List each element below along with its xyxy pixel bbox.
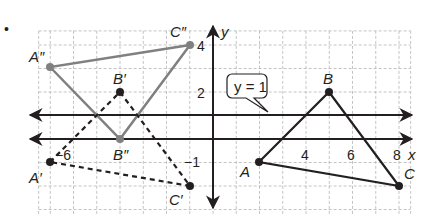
label-c-double-prime: C″ <box>170 23 187 40</box>
coordinate-plane-diagram: • y x 4 2 −1 −6 4 6 8 y = 1 A B C A′ B′ … <box>0 0 431 215</box>
y-tick-neg1: −1 <box>184 154 200 170</box>
label-c-prime: C′ <box>169 191 184 208</box>
y-tick-2: 2 <box>197 85 205 101</box>
label-a: A <box>239 163 250 180</box>
reflection-line-callout: y = 1 <box>227 74 268 112</box>
point-c-double-prime <box>186 41 194 49</box>
point-c-prime <box>186 182 194 190</box>
x-tick-6: 6 <box>347 147 355 163</box>
y-tick-4: 4 <box>197 38 205 54</box>
x-tick-4: 4 <box>301 147 309 163</box>
point-b-prime <box>116 88 124 96</box>
x-axis-label: x <box>407 146 416 163</box>
label-b-prime: B′ <box>113 70 127 87</box>
point-c <box>395 182 403 190</box>
point-a <box>255 158 263 166</box>
label-b: B <box>323 70 333 87</box>
problem-bullet: • <box>4 21 9 37</box>
y-axis-label: y <box>220 23 230 40</box>
x-tick-8: 8 <box>393 147 401 163</box>
label-a-prime: A′ <box>28 169 43 186</box>
point-b-double-prime <box>116 135 124 143</box>
point-b <box>325 88 333 96</box>
label-a-double-prime: A″ <box>28 48 45 65</box>
reflection-line-equation: y = 1 <box>234 78 267 95</box>
point-a-prime <box>46 158 54 166</box>
grid <box>39 31 411 215</box>
point-a-double-prime <box>46 63 54 71</box>
label-c: C <box>404 165 415 182</box>
label-b-double-prime: B″ <box>113 146 129 163</box>
